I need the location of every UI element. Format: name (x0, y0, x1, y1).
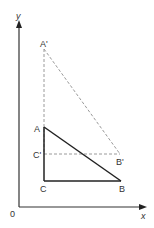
x-axis-arrow-icon (139, 204, 147, 210)
y-axis-arrow-icon (16, 20, 22, 28)
image-triangle (44, 49, 120, 154)
label-b: B (119, 184, 125, 194)
label-c: C (40, 184, 47, 194)
label-b-prime: B' (116, 157, 124, 167)
transformation-diagram: y x 0 A' A C' B' C B (0, 0, 154, 228)
x-axis-label: x (140, 211, 146, 221)
y-axis-label: y (15, 11, 21, 21)
origin-label: 0 (10, 209, 15, 219)
label-c-prime: C' (33, 150, 41, 160)
label-a: A (34, 124, 40, 134)
edge-a-prime-b-prime (44, 49, 120, 154)
label-a-prime: A' (40, 39, 48, 49)
